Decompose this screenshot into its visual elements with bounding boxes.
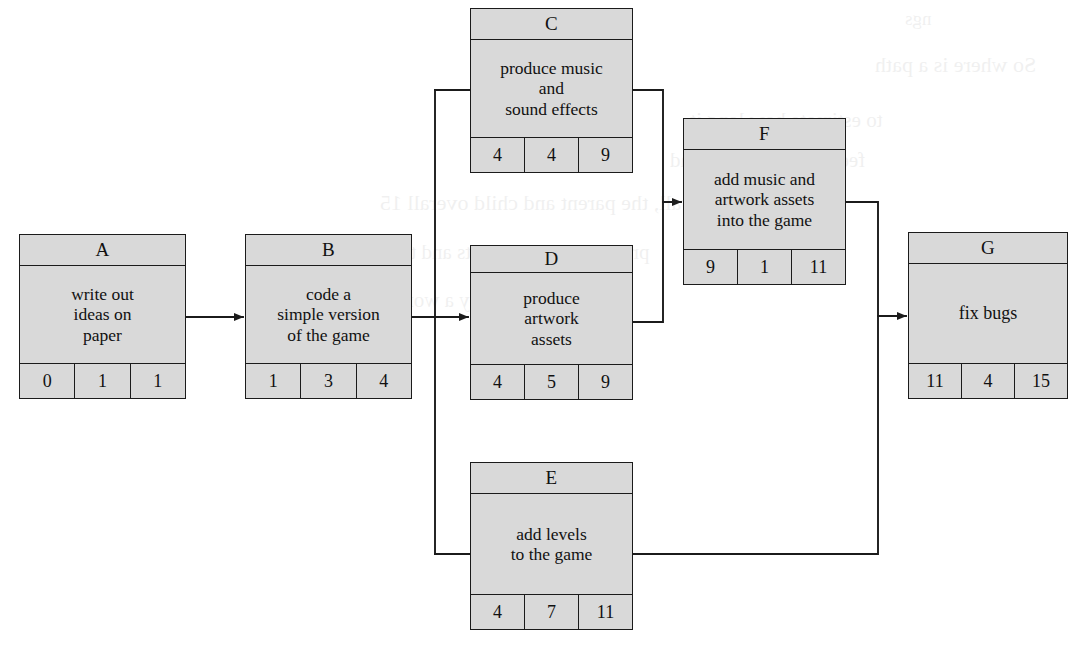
node-F[interactable]: F add music and artwork assets into the … (683, 118, 846, 285)
node-E-desc-line: to the game (511, 544, 593, 564)
node-E-duration: 7 (525, 595, 579, 629)
node-A-earliest-start: 0 (20, 364, 75, 398)
node-A-description: write out ideas on paper (20, 266, 185, 363)
node-E-numbers: 4 7 11 (471, 594, 632, 629)
node-B-desc-line: simple version (277, 304, 380, 324)
node-D-id: D (471, 246, 632, 273)
node-F-id: F (684, 119, 845, 150)
node-C-desc-line: sound effects (500, 99, 603, 119)
node-G-earliest-start: 11 (909, 364, 962, 398)
node-B-desc-line: of the game (277, 325, 380, 345)
node-C-id: C (471, 9, 632, 40)
edge-E-to-G (633, 316, 878, 554)
node-A-earliest-finish: 1 (131, 364, 185, 398)
edge-F-to-G (846, 202, 906, 316)
node-F-desc-line: add music and (714, 169, 815, 189)
node-E-id: E (471, 463, 632, 494)
node-G-duration: 4 (962, 364, 1015, 398)
node-B[interactable]: B code a simple version of the game 1 3 … (245, 234, 412, 399)
node-F-numbers: 9 1 11 (684, 249, 845, 284)
node-D-description: produce artwork assets (471, 273, 632, 364)
node-D-desc-line: assets (523, 329, 579, 349)
node-E-earliest-start: 4 (471, 595, 525, 629)
node-C-earliest-start: 4 (471, 138, 525, 172)
node-C-description: produce music and sound effects (471, 40, 632, 137)
node-F-earliest-finish: 11 (792, 250, 845, 284)
node-E-desc-line: add levels (511, 524, 593, 544)
node-B-description: code a simple version of the game (246, 266, 411, 363)
node-G-earliest-finish: 15 (1015, 364, 1067, 398)
node-A-desc-line: write out (71, 284, 134, 304)
edge-D-to-F (633, 202, 663, 322)
node-A-duration: 1 (75, 364, 130, 398)
node-D-desc-line: artwork (523, 308, 579, 328)
edge-C-to-F (633, 90, 681, 202)
node-G-id: G (909, 233, 1067, 264)
node-A-id: A (20, 235, 185, 266)
node-C-desc-line: produce music (500, 58, 603, 78)
node-F-desc-line: into the game (714, 210, 815, 230)
node-A-numbers: 0 1 1 (20, 363, 185, 398)
node-A[interactable]: A write out ideas on paper 0 1 1 (19, 234, 186, 399)
node-E[interactable]: E add levels to the game 4 7 11 (470, 462, 633, 630)
node-B-desc-line: code a (277, 284, 380, 304)
node-D-earliest-finish: 9 (579, 365, 632, 399)
node-C-earliest-finish: 9 (579, 138, 632, 172)
node-G-numbers: 11 4 15 (909, 363, 1067, 398)
node-D-duration: 5 (525, 365, 579, 399)
network-diagram-canvas: ngs So where is a path to estimate how l… (0, 0, 1085, 653)
node-E-earliest-finish: 11 (579, 595, 632, 629)
node-C[interactable]: C produce music and sound effects 4 4 9 (470, 8, 633, 173)
node-F-desc-line: artwork assets (714, 189, 815, 209)
node-C-desc-line: and (500, 78, 603, 98)
node-B-earliest-finish: 4 (357, 364, 411, 398)
node-B-numbers: 1 3 4 (246, 363, 411, 398)
node-A-desc-line: ideas on (71, 304, 134, 324)
node-F-description: add music and artwork assets into the ga… (684, 150, 845, 249)
node-C-numbers: 4 4 9 (471, 137, 632, 172)
node-B-id: B (246, 235, 411, 266)
node-G-desc-line: fix bugs (959, 303, 1018, 324)
node-D[interactable]: D produce artwork assets 4 5 9 (470, 245, 633, 400)
node-F-duration: 1 (738, 250, 792, 284)
node-A-desc-line: paper (71, 325, 134, 345)
node-B-earliest-start: 1 (246, 364, 301, 398)
node-G-description: fix bugs (909, 264, 1067, 363)
node-F-earliest-start: 9 (684, 250, 738, 284)
node-D-earliest-start: 4 (471, 365, 525, 399)
node-D-numbers: 4 5 9 (471, 364, 632, 399)
node-D-desc-line: produce (523, 288, 579, 308)
node-C-duration: 4 (525, 138, 579, 172)
node-E-description: add levels to the game (471, 494, 632, 594)
node-B-duration: 3 (301, 364, 356, 398)
node-G[interactable]: G fix bugs 11 4 15 (908, 232, 1068, 399)
